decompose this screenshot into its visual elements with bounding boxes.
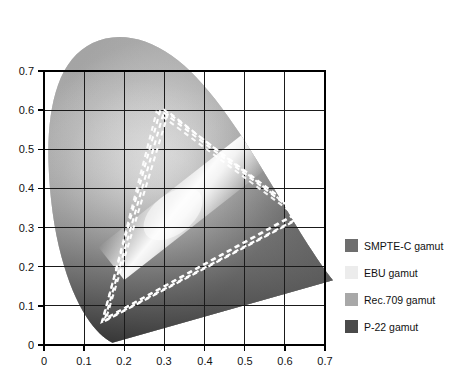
legend-swatch-rec709	[345, 293, 358, 306]
legend-swatch-smpte-c	[345, 239, 358, 252]
x-tick-label-0.5: 0.5	[237, 356, 252, 367]
legend-label-p22: P-22 gamut	[364, 321, 418, 333]
y-tick-label-0.2: 0.2	[19, 262, 34, 273]
x-tick-label-0.3: 0.3	[156, 356, 171, 367]
y-tick-label-0.4: 0.4	[19, 183, 34, 194]
spectral-locus-fill	[40, 25, 340, 350]
legend-item-smpte-c[interactable]: SMPTE-C gamut	[345, 232, 461, 259]
x-tick-label-0.4: 0.4	[197, 356, 212, 367]
legend-item-rec709[interactable]: Rec.709 gamut	[345, 286, 461, 313]
legend-label-ebu: EBU gamut	[364, 267, 418, 279]
y-tick-label-0.6: 0.6	[19, 105, 34, 116]
x-tick-label-0.6: 0.6	[277, 356, 292, 367]
legend-swatch-p22	[345, 320, 358, 333]
x-tick-label-0.2: 0.2	[116, 356, 131, 367]
legend-item-ebu[interactable]: EBU gamut	[345, 259, 461, 286]
y-tick-label-0.7: 0.7	[19, 66, 34, 77]
y-tick-label-0.3: 0.3	[19, 223, 34, 234]
legend-label-rec709: Rec.709 gamut	[364, 294, 435, 306]
y-tick-label-0: 0	[28, 340, 34, 351]
chromaticity-diagram-figure: 0.7 0.6 0.5 0.4 0.3 0.2 0.1 0 0 0.1 0.2 …	[0, 0, 461, 386]
y-tick-label-0.5: 0.5	[19, 144, 34, 155]
x-tick-label-0: 0	[41, 356, 47, 367]
y-tick-label-0.1: 0.1	[19, 301, 34, 312]
legend-label-smpte-c: SMPTE-C gamut	[364, 240, 443, 252]
chart-legend: SMPTE-C gamut EBU gamut Rec.709 gamut P-…	[345, 232, 461, 340]
x-tick-label-0.1: 0.1	[76, 356, 91, 367]
legend-swatch-ebu	[345, 266, 358, 279]
legend-item-p22[interactable]: P-22 gamut	[345, 313, 461, 340]
x-tick-label-0.7: 0.7	[317, 356, 332, 367]
